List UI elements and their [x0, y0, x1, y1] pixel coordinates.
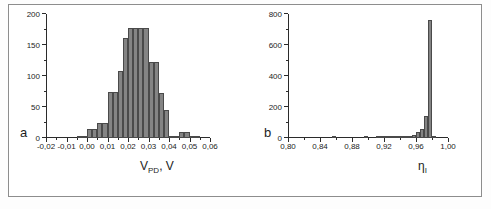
y-tick-minor-a: [44, 29, 46, 30]
x-axis-title-b-sub: I: [425, 166, 427, 175]
y-tick-b: [284, 44, 288, 45]
y-axis-b: [288, 14, 289, 138]
histogram-bar: [164, 110, 169, 138]
y-tick-label-a: 200: [27, 11, 40, 19]
y-tick-a: [42, 44, 46, 45]
histogram-bar: [195, 136, 200, 138]
y-tick-label-b: 200: [269, 104, 282, 112]
x-tick-minor-a: [179, 138, 180, 140]
x-tick-label-a: 0,00: [79, 143, 95, 151]
histogram-bar: [332, 136, 336, 138]
plot-area-b: 02004006008000,800,840,880,920,961,00: [288, 14, 448, 138]
x-tick-label-b: 0,84: [312, 143, 328, 151]
y-tick-minor-a: [44, 60, 46, 61]
figure-caption: [10, 199, 480, 209]
y-tick-label-b: 800: [269, 11, 282, 19]
y-tick-b: [284, 75, 288, 76]
x-tick-minor-b: [304, 138, 305, 140]
x-tick-label-b: 0,88: [344, 143, 360, 151]
x-tick-label-a: 0,04: [161, 143, 177, 151]
y-tick-a: [42, 75, 46, 76]
y-tick-b: [284, 13, 288, 14]
y-axis-a: [46, 14, 47, 138]
x-tick-label-b: 0,96: [408, 143, 424, 151]
x-axis-title-b-base: η: [418, 159, 425, 173]
y-tick-a: [42, 13, 46, 14]
x-tick-minor-a: [97, 138, 98, 140]
x-tick-minor-b: [400, 138, 401, 140]
x-axis-title-a: VPD, V: [140, 160, 174, 175]
x-axis-title-a-tail: , V: [159, 159, 174, 173]
y-tick-a: [42, 106, 46, 107]
x-tick-minor-a: [56, 138, 57, 140]
x-tick-label-a: 0,06: [202, 143, 218, 151]
y-tick-b: [284, 106, 288, 107]
x-tick-minor-b: [368, 138, 369, 140]
y-tick-minor-b: [286, 29, 288, 30]
x-tick-label-a: -0,02: [37, 143, 55, 151]
x-tick-minor-a: [159, 138, 160, 140]
x-tick-minor-b: [336, 138, 337, 140]
y-tick-label-b: 400: [269, 73, 282, 81]
x-tick-minor-a: [118, 138, 119, 140]
x-axis-title-a-base: V: [140, 159, 148, 173]
y-tick-label-a: 150: [27, 42, 40, 50]
plot-area-a: 050100150200-0,02-0,010,000,010,020,030,…: [46, 14, 210, 138]
x-tick-minor-b: [432, 138, 433, 140]
x-tick-label-a: 0,05: [182, 143, 198, 151]
chart-panel-b: 02004006008000,800,840,880,920,961,00 b …: [238, 0, 474, 193]
x-tick-label-a: -0,01: [57, 143, 75, 151]
histogram-bar: [428, 20, 432, 138]
x-tick-minor-a: [77, 138, 78, 140]
x-axis-title-a-sub: PD: [148, 166, 159, 175]
x-tick-label-b: 1,00: [440, 143, 456, 151]
chart-panel-a: 050100150200-0,02-0,010,000,010,020,030,…: [0, 0, 240, 193]
y-tick-label-a: 100: [27, 73, 40, 81]
panel-label-b: b: [264, 126, 271, 139]
histogram-bar: [432, 136, 436, 138]
x-tick-minor-a: [138, 138, 139, 140]
y-tick-minor-b: [286, 91, 288, 92]
x-axis-title-b: ηI: [418, 160, 427, 175]
x-tick-label-a: 0,01: [100, 143, 116, 151]
x-tick-label-a: 0,03: [141, 143, 157, 151]
y-tick-minor-a: [44, 91, 46, 92]
x-tick-label-b: 0,92: [376, 143, 392, 151]
y-tick-minor-b: [286, 122, 288, 123]
figure-root: 050100150200-0,02-0,010,000,010,020,030,…: [0, 0, 491, 209]
x-tick-label-b: 0,80: [280, 143, 296, 151]
panel-label-a: a: [20, 126, 27, 139]
y-tick-minor-a: [44, 122, 46, 123]
y-tick-label-a: 50: [31, 104, 40, 112]
x-tick-minor-a: [200, 138, 201, 140]
y-tick-label-b: 600: [269, 42, 282, 50]
histogram-bar: [364, 136, 368, 138]
y-tick-minor-b: [286, 60, 288, 61]
x-tick-label-a: 0,02: [120, 143, 136, 151]
